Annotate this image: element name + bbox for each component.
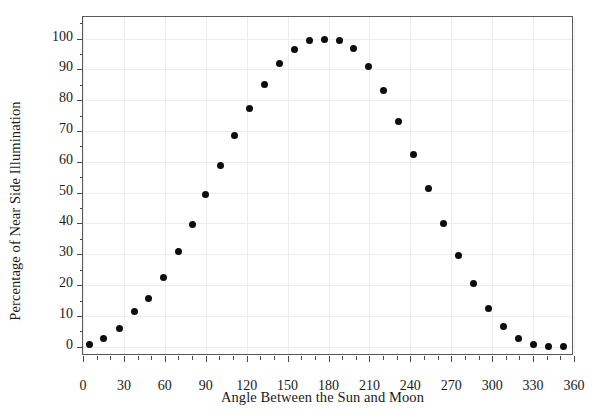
y-axis-tick	[77, 223, 83, 224]
y-axis-title: Percentage of Near Side Illumination	[0, 31, 30, 391]
y-axis-tick-label: 10	[33, 306, 73, 322]
x-axis-tick-label: 300	[470, 378, 514, 394]
gridline-vertical	[206, 17, 207, 354]
y-axis-minor-tick	[80, 239, 84, 240]
data-point	[306, 37, 313, 44]
data-point	[380, 87, 387, 94]
y-axis-tick	[77, 39, 83, 40]
y-axis-tick	[77, 347, 83, 348]
gridline-vertical	[329, 17, 330, 354]
y-axis-tick	[77, 131, 83, 132]
gridline-horizontal	[83, 193, 572, 194]
y-axis-tick-label: 20	[33, 275, 73, 291]
y-axis-tick-label: 40	[33, 213, 73, 229]
x-axis-minor-tick	[233, 356, 234, 360]
x-axis-minor-tick	[438, 356, 439, 360]
x-axis-minor-tick	[465, 356, 466, 360]
y-axis-tick-label: 100	[33, 29, 73, 45]
x-axis-minor-tick	[356, 356, 357, 360]
x-axis-minor-tick	[547, 356, 548, 360]
x-axis-tick	[288, 356, 289, 362]
scatter-chart-figure: Percentage of Near Side Illumination Ang…	[0, 0, 595, 420]
x-axis-tick-label: 360	[552, 378, 595, 394]
y-axis-minor-tick	[80, 116, 84, 117]
y-axis-tick-label: 60	[33, 152, 73, 168]
y-axis-tick	[77, 285, 83, 286]
gridline-horizontal	[83, 254, 572, 255]
gridline-horizontal	[83, 316, 572, 317]
gridline-horizontal	[83, 223, 572, 224]
y-axis-minor-tick	[80, 208, 84, 209]
x-axis-minor-tick	[315, 356, 316, 360]
x-axis-minor-tick	[192, 356, 193, 360]
x-axis-tick	[574, 356, 575, 362]
x-axis-minor-tick	[260, 356, 261, 360]
gridline-vertical	[247, 17, 248, 354]
x-axis-tick-label: 60	[143, 378, 187, 394]
gridline-horizontal	[83, 100, 572, 101]
data-point	[410, 151, 417, 158]
x-axis-tick-label: 30	[102, 378, 146, 394]
data-point	[545, 343, 552, 350]
gridline-horizontal	[83, 285, 572, 286]
y-axis-minor-tick	[80, 146, 84, 147]
x-axis-tick	[410, 356, 411, 362]
y-axis-minor-tick	[80, 85, 84, 86]
x-axis-tick-label: 0	[61, 378, 105, 394]
data-point	[515, 335, 522, 342]
x-axis-tick-label: 270	[429, 378, 473, 394]
gridline-vertical	[83, 17, 84, 354]
plot-area: 0306090120150180210240270300330360010203…	[82, 16, 573, 355]
data-point	[202, 191, 209, 198]
y-axis-tick-label: 80	[33, 90, 73, 106]
x-axis-tick	[369, 356, 370, 362]
y-axis-tick-label: 70	[33, 121, 73, 137]
data-point	[530, 341, 537, 348]
x-axis-minor-tick	[397, 356, 398, 360]
x-axis-minor-tick	[560, 356, 561, 360]
y-axis-minor-tick	[80, 54, 84, 55]
data-point	[231, 132, 238, 139]
data-point	[336, 37, 343, 44]
x-axis-tick	[247, 356, 248, 362]
gridline-vertical	[492, 17, 493, 354]
y-axis-tick	[77, 316, 83, 317]
data-point	[455, 252, 462, 259]
gridline-vertical	[124, 17, 125, 354]
x-axis-minor-tick	[479, 356, 480, 360]
x-axis-minor-tick	[506, 356, 507, 360]
x-axis-tick	[533, 356, 534, 362]
x-axis-minor-tick	[219, 356, 220, 360]
y-axis-tick-label: 0	[33, 337, 73, 353]
y-axis-minor-tick	[80, 270, 84, 271]
data-point	[261, 81, 268, 88]
gridline-vertical	[451, 17, 452, 354]
gridline-horizontal	[83, 347, 572, 348]
x-axis-tick	[492, 356, 493, 362]
x-axis-tick	[83, 356, 84, 362]
gridline-horizontal	[83, 131, 572, 132]
x-axis-minor-tick	[274, 356, 275, 360]
y-axis-tick	[77, 100, 83, 101]
x-axis-minor-tick	[383, 356, 384, 360]
x-axis-tick-label: 120	[225, 378, 269, 394]
y-axis-tick-label: 90	[33, 59, 73, 75]
x-axis-tick	[206, 356, 207, 362]
data-point	[145, 295, 152, 302]
gridline-vertical	[574, 17, 575, 354]
data-point	[160, 274, 167, 281]
x-axis-tick	[165, 356, 166, 362]
data-point	[189, 221, 196, 228]
data-point	[395, 118, 402, 125]
y-axis-minor-tick	[80, 331, 84, 332]
x-axis-minor-tick	[301, 356, 302, 360]
y-axis-tick	[77, 162, 83, 163]
y-axis-tick	[77, 69, 83, 70]
data-point	[425, 185, 432, 192]
x-axis-tick	[451, 356, 452, 362]
gridline-vertical	[165, 17, 166, 354]
y-axis-minor-tick	[80, 23, 84, 24]
x-axis-tick-label: 240	[388, 378, 432, 394]
data-point	[276, 60, 283, 67]
gridline-vertical	[288, 17, 289, 354]
